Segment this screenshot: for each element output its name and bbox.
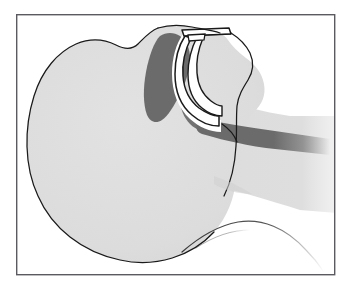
illustration-figure	[0, 0, 350, 286]
illustration-canvas	[0, 0, 350, 286]
device-flange-riser	[188, 34, 205, 41]
